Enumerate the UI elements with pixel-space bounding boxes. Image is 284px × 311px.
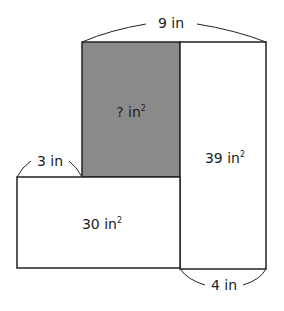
left-area-label: 30 in2 bbox=[82, 216, 122, 232]
top-dimension-label: 9 in bbox=[158, 15, 184, 31]
right-area-label: 39 in2 bbox=[205, 150, 245, 166]
area-diagram: 9 in 3 in 4 in ? in2 39 in2 30 in2 bbox=[0, 0, 284, 311]
bottom-dimension-label: 4 in bbox=[211, 277, 237, 293]
left-brace-right bbox=[69, 161, 82, 177]
bottom-brace-left bbox=[180, 269, 205, 285]
top-brace-left bbox=[82, 24, 146, 42]
left-step-dimension-label: 3 in bbox=[37, 153, 63, 169]
left-brace-left bbox=[17, 161, 31, 177]
top-brace-right bbox=[197, 24, 266, 42]
bottom-brace-right bbox=[243, 269, 266, 285]
